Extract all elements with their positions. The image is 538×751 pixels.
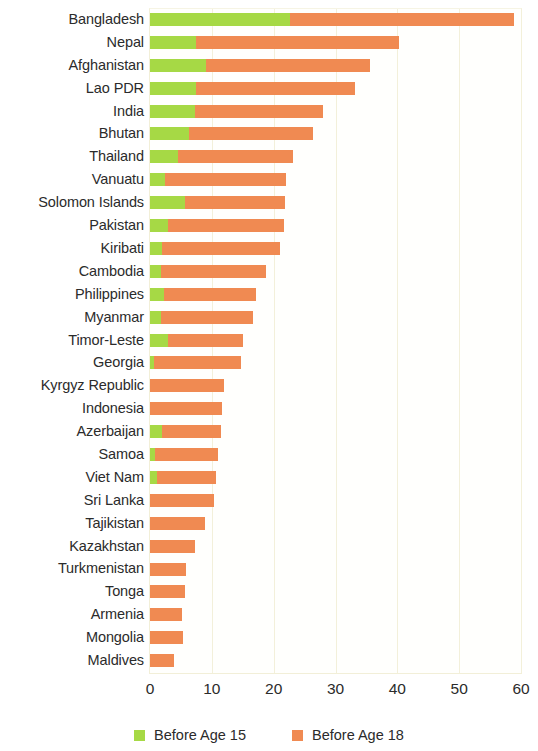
bar-row — [150, 421, 521, 442]
category-label-lao-pdr: Lao PDR — [0, 80, 144, 96]
category-label-india: India — [0, 103, 144, 119]
bar-segment-before-age-15 — [150, 82, 196, 95]
y-axis-category-labels: BangladeshNepalAfghanistanLao PDRIndiaBh… — [0, 8, 144, 674]
category-label-bangladesh: Bangladesh — [0, 11, 144, 27]
bar-group — [150, 563, 186, 576]
bar-row — [150, 55, 521, 76]
bar-group — [150, 311, 253, 324]
gridline-60 — [521, 9, 522, 673]
bar-row — [150, 32, 521, 53]
bar-group — [150, 150, 293, 163]
bar-row — [150, 581, 521, 602]
bar-row — [150, 330, 521, 351]
bar-row — [150, 536, 521, 557]
bar-segment-before-age-18 — [162, 242, 279, 255]
bar-segment-before-age-18 — [164, 288, 256, 301]
bar-group — [150, 379, 224, 392]
bar-group — [150, 517, 205, 530]
bar-group — [150, 105, 323, 118]
bar-segment-before-age-18 — [189, 127, 313, 140]
x-tick-label-30: 30 — [327, 679, 344, 699]
bar-segment-before-age-15 — [150, 59, 206, 72]
bar-segment-before-age-15 — [150, 471, 157, 484]
category-label-azerbaijan: Azerbaijan — [0, 423, 144, 439]
legend-label: Before Age 15 — [154, 727, 246, 743]
bar-segment-before-age-18 — [162, 425, 221, 438]
bar-segment-before-age-18 — [150, 402, 222, 415]
bar-segment-before-age-18 — [150, 585, 185, 598]
bar-row — [150, 559, 521, 580]
bar-row — [150, 169, 521, 190]
bar-segment-before-age-15 — [150, 425, 162, 438]
x-axis-tick-labels: 0102030405060 — [0, 679, 538, 703]
bar-group — [150, 82, 355, 95]
x-tick-label-60: 60 — [512, 679, 529, 699]
x-tick-label-20: 20 — [265, 679, 282, 699]
bar-segment-before-age-18 — [157, 471, 216, 484]
bar-segment-before-age-15 — [150, 334, 168, 347]
category-label-vanuatu: Vanuatu — [0, 171, 144, 187]
bar-segment-before-age-15 — [150, 173, 165, 186]
bar-row — [150, 650, 521, 671]
bar-row — [150, 490, 521, 511]
category-label-kiribati: Kiribati — [0, 240, 144, 256]
bar-group — [150, 196, 285, 209]
bar-segment-before-age-18 — [168, 334, 243, 347]
legend-swatch-icon — [134, 730, 145, 741]
category-label-nepal: Nepal — [0, 34, 144, 50]
bar-row — [150, 467, 521, 488]
category-label-solomon-islands: Solomon Islands — [0, 194, 144, 210]
bar-group — [150, 494, 214, 507]
category-label-philippines: Philippines — [0, 286, 144, 302]
category-label-timor-leste: Timor-Leste — [0, 332, 144, 348]
bar-segment-before-age-18 — [196, 82, 356, 95]
x-tick-label-10: 10 — [203, 679, 220, 699]
bar-group — [150, 13, 514, 26]
bar-row — [150, 261, 521, 282]
category-label-turkmenistan: Turkmenistan — [0, 560, 144, 576]
bar-row — [150, 215, 521, 236]
bar-segment-before-age-18 — [150, 540, 195, 553]
bar-row — [150, 78, 521, 99]
legend-label: Before Age 18 — [312, 727, 404, 743]
bar-group — [150, 540, 195, 553]
bar-segment-before-age-15 — [150, 288, 164, 301]
bar-segment-before-age-18 — [185, 196, 285, 209]
bar-group — [150, 608, 182, 621]
bar-segment-before-age-18 — [150, 563, 186, 576]
bar-rows — [150, 9, 521, 673]
bar-row — [150, 375, 521, 396]
chart-legend: Before Age 15Before Age 18 — [0, 723, 538, 747]
bar-segment-before-age-18 — [150, 517, 205, 530]
bar-segment-before-age-15 — [150, 311, 161, 324]
bar-row — [150, 398, 521, 419]
legend-item-before-age-18[interactable]: Before Age 18 — [292, 727, 404, 743]
bar-group — [150, 471, 216, 484]
category-label-bhutan: Bhutan — [0, 125, 144, 141]
bar-row — [150, 284, 521, 305]
bar-segment-before-age-18 — [161, 265, 266, 278]
bar-group — [150, 425, 221, 438]
bar-segment-before-age-18 — [195, 105, 324, 118]
bar-segment-before-age-18 — [150, 379, 224, 392]
plot-area — [149, 8, 522, 674]
bar-row — [150, 627, 521, 648]
legend-item-before-age-15[interactable]: Before Age 15 — [134, 727, 246, 743]
category-label-kazakhstan: Kazakhstan — [0, 538, 144, 554]
bar-segment-before-age-18 — [154, 356, 241, 369]
category-label-kyrgyz-republic: Kyrgyz Republic — [0, 377, 144, 393]
bar-group — [150, 402, 222, 415]
bar-segment-before-age-15 — [150, 13, 290, 26]
bar-segment-before-age-15 — [150, 127, 189, 140]
bar-segment-before-age-15 — [150, 196, 185, 209]
x-tick-label-40: 40 — [389, 679, 406, 699]
bar-segment-before-age-15 — [150, 242, 162, 255]
bar-segment-before-age-18 — [150, 608, 182, 621]
bar-segment-before-age-15 — [150, 219, 168, 232]
bar-segment-before-age-15 — [150, 36, 196, 49]
bar-group — [150, 288, 256, 301]
bar-group — [150, 36, 399, 49]
category-label-thailand: Thailand — [0, 148, 144, 164]
bar-segment-before-age-18 — [168, 219, 284, 232]
bar-row — [150, 444, 521, 465]
